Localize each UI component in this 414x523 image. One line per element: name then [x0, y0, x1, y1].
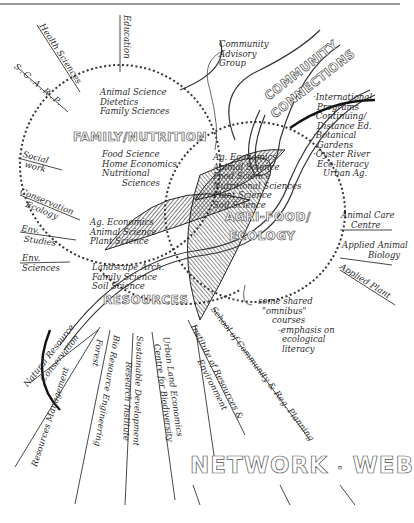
spoke-animal-care-centre: Animal Care Centre — [341, 211, 395, 230]
network-word: NETWORK — [190, 452, 328, 478]
spoke-label: Sciences — [22, 264, 60, 274]
community-items: ·International Programs ·Continuing/ Dis… — [313, 93, 372, 179]
spoke-env-sciences: Env. Sciences — [22, 254, 60, 273]
resources-overlap-items: Ag. Economics Animal Science Plant Scien… — [90, 218, 156, 247]
family-top-items: Animal Science Dietetics Family Sciences — [100, 88, 169, 117]
spoke-label: Centre — [341, 221, 395, 231]
note-line: literacy — [258, 345, 335, 355]
omnibus-courses-note: some shared "omnibus" courses -emphasis … — [258, 297, 335, 354]
family-bottom-items: Food Science Home Economics Nutritional … — [102, 150, 177, 188]
item-family-sciences: Family Sciences — [100, 107, 169, 117]
item-sciences: Sciences — [102, 179, 177, 189]
resources-title: RESOURCES — [103, 293, 188, 307]
agri-food-items: Ag. Economics Animal Science Food Scienc… — [213, 153, 301, 210]
family-nutrition-title: FAMILY/NUTRITION — [73, 130, 207, 144]
agri-food-title-line1: AGRI-FOOD/ — [225, 210, 311, 224]
item-plant-science: Plant Science — [90, 237, 156, 247]
advisory-line: Group — [219, 59, 269, 69]
resources-items: Landscape Arch. Family Science Soil Scie… — [92, 263, 164, 292]
community-advisory-group: Community Advisory Group — [219, 40, 269, 69]
network-web-title: NETWORK · WEB — [190, 452, 414, 478]
spoke-sustainable-development: Sustainable Development Research Institu… — [121, 335, 144, 446]
spoke-applied-animal-biology: Applied Animal Biology — [342, 241, 408, 260]
spoke-label: Biology — [342, 251, 408, 261]
item-soil-science: Soil Science — [92, 282, 164, 292]
agri-food-title-line2: ECOLOGY — [229, 229, 295, 243]
title-separator: · — [337, 460, 343, 476]
spoke-education: Education — [122, 15, 132, 59]
item-urban-ag: Urban Ag. — [313, 169, 372, 179]
item-soil-science: Soil Science — [213, 201, 301, 211]
web-word: WEB — [352, 452, 414, 478]
